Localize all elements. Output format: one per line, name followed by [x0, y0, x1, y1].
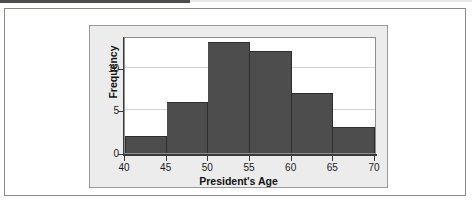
y-axis-line	[123, 37, 124, 155]
histogram-bar	[125, 136, 167, 153]
x-axis-tick	[207, 156, 208, 161]
chart-panel: 0510 40455055606570 President's Age Freq…	[89, 25, 388, 188]
x-axis-tick	[249, 156, 250, 161]
x-axis-tick	[291, 156, 292, 161]
y-axis-title: Frequency	[107, 27, 119, 117]
x-axis-tick-label: 55	[237, 162, 261, 173]
plot-area	[124, 37, 376, 154]
x-axis-line	[123, 154, 377, 156]
page-top-rule	[0, 0, 190, 3]
x-axis-tick-label: 40	[112, 162, 136, 173]
x-axis-tick	[166, 156, 167, 161]
y-axis-tick-label: 0	[99, 149, 119, 159]
x-axis-tick	[332, 156, 333, 161]
x-axis-tick-label: 50	[195, 162, 219, 173]
x-axis-tick-label: 45	[154, 162, 178, 173]
x-axis-tick	[374, 156, 375, 161]
x-axis-tick-label: 65	[320, 162, 344, 173]
page-top-rule-faint	[190, 0, 472, 2]
x-axis-tick-label: 60	[279, 162, 303, 173]
histogram-bars	[125, 38, 375, 153]
histogram-bar	[250, 51, 292, 153]
x-axis-tick-label: 70	[362, 162, 386, 173]
histogram-bar	[292, 93, 334, 153]
histogram-bar	[167, 102, 209, 153]
histogram-bar	[208, 42, 250, 153]
figure-container: 0510 40455055606570 President's Age Freq…	[4, 8, 466, 196]
histogram-bar	[333, 127, 375, 153]
x-axis-title: President's Age	[90, 175, 387, 187]
x-axis-tick	[124, 156, 125, 161]
